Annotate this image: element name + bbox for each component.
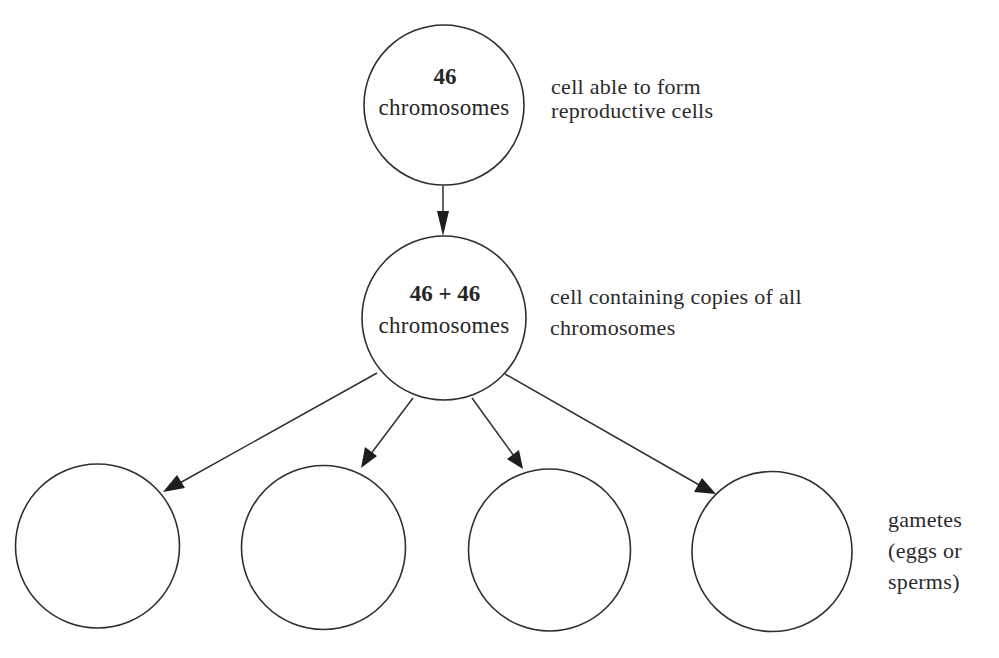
arrow-to-gamete-2 — [361, 398, 413, 468]
gametes-description-line-1: gametes — [888, 504, 962, 535]
arrowhead-icon — [361, 447, 377, 468]
arrowhead-icon — [163, 475, 185, 492]
parent-cell-node: 46 chromosomes — [364, 25, 524, 185]
gamete-1-circle — [16, 464, 180, 628]
gamete-3-circle — [469, 469, 631, 631]
replicated-cell-description-line-1: cell containing copies of all — [550, 281, 802, 312]
gamete-4-circle — [692, 472, 852, 632]
replicated-cell-unit: chromosomes — [378, 313, 509, 338]
gametes-description-line-2: (eggs or — [888, 535, 962, 566]
arrowhead-icon — [694, 478, 716, 494]
meiosis-diagram: 46 chromosomes 46 + 46 chromosomes — [0, 0, 999, 658]
parent-cell-count: 46 — [434, 64, 457, 89]
gametes-description-line-3: sperms) — [888, 566, 962, 597]
parent-cell-description: cell able to form reproductive cells — [551, 75, 713, 123]
gamete-2-circle — [242, 466, 406, 630]
gametes-description: gametes (eggs or sperms) — [888, 504, 962, 597]
parent-cell-unit: chromosomes — [378, 95, 509, 120]
arrowhead-icon — [507, 450, 523, 469]
arrow-to-gamete-3 — [472, 398, 523, 469]
arrowhead-icon — [437, 211, 449, 236]
arrow-parent-to-replicated — [437, 186, 449, 236]
parent-cell-description-line-2: reproductive cells — [551, 99, 713, 123]
replicated-cell-node: 46 + 46 chromosomes — [362, 236, 526, 400]
replicated-cell-count: 46 + 46 — [410, 281, 481, 306]
parent-cell-description-line-1: cell able to form — [551, 75, 713, 99]
replicated-cell-description: cell containing copies of all chromosome… — [550, 281, 802, 343]
replicated-cell-description-line-2: chromosomes — [550, 312, 802, 343]
